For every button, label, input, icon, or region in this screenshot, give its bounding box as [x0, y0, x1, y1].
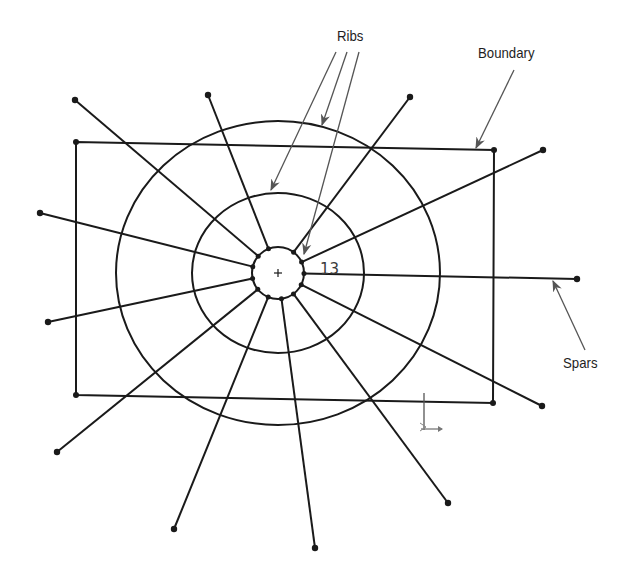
spars-leader-arrow: [553, 281, 585, 350]
spar-endpoint: [250, 276, 255, 281]
boundary-label: Boundary: [478, 44, 535, 61]
spar-endpoint: [37, 210, 43, 216]
coordinate-triad-icon: [420, 393, 443, 432]
spar-endpoint: [54, 449, 60, 455]
ribs-label: Ribs: [337, 27, 363, 44]
spar-line: [40, 213, 253, 267]
spar-endpoint: [256, 254, 261, 259]
boundary-outline: [76, 142, 494, 403]
spar-endpoint: [266, 246, 271, 251]
spar-endpoint: [299, 260, 304, 265]
spars-label: Spars: [563, 354, 597, 371]
spar-endpoint: [539, 403, 545, 409]
spar-line: [302, 150, 543, 262]
spar-endpoint: [540, 147, 546, 153]
boundary-corner: [490, 400, 496, 406]
spar-endpoint: [255, 287, 260, 292]
spar-endpoint: [266, 295, 271, 300]
wing-structure-drawing: [0, 0, 641, 578]
spar-endpoint: [407, 94, 413, 100]
boundary-corner: [73, 392, 79, 398]
spar-endpoint: [279, 296, 284, 301]
spar-line: [301, 285, 542, 406]
dimension-label: 13: [320, 260, 339, 278]
spar-endpoint: [205, 92, 211, 98]
spar-endpoint: [299, 282, 304, 287]
spar-endpoint: [574, 276, 580, 282]
diagram-canvas: Ribs Boundary Spars 13: [0, 0, 641, 578]
spar-endpoint: [171, 526, 177, 532]
center-cross-icon: [274, 269, 282, 277]
spar-endpoint: [45, 319, 51, 325]
spar-line: [75, 100, 258, 256]
boundary-corner: [73, 139, 79, 145]
spar-endpoint: [445, 500, 451, 506]
boundary-leader-arrow: [476, 70, 514, 148]
spar-line: [48, 278, 253, 322]
spar-endpoint: [301, 271, 306, 276]
spar-line: [208, 95, 269, 249]
boundary-corner: [491, 147, 497, 153]
spar-endpoint: [312, 545, 318, 551]
spar-lines: [37, 92, 580, 551]
boundary-corner-points: [73, 139, 497, 406]
spar-endpoint: [291, 250, 296, 255]
spar-endpoint: [291, 291, 296, 296]
spar-line: [294, 294, 449, 503]
spar-endpoint: [72, 97, 78, 103]
spar-endpoint: [250, 264, 255, 269]
spar-line: [282, 299, 316, 548]
